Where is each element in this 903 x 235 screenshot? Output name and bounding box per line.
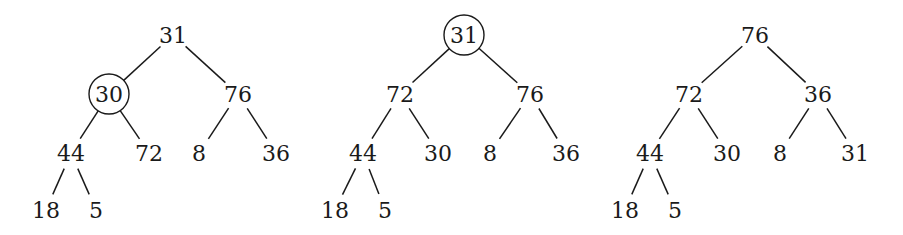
tree-node: 31 (841, 141, 869, 166)
node-label: 30 (95, 82, 123, 107)
tree-edge (702, 46, 743, 82)
node-label: 18 (611, 198, 639, 223)
tree-edge (53, 169, 64, 195)
tree-node: 36 (262, 141, 290, 166)
tree-3: 7672364430831185 (611, 23, 869, 223)
node-label: 76 (741, 23, 769, 48)
heap-diagram: 3130764472836185317276443083618576723644… (0, 0, 903, 235)
node-label: 18 (32, 198, 60, 223)
node-label: 44 (57, 141, 85, 166)
node-label: 30 (424, 141, 452, 166)
node-label: 72 (386, 82, 414, 107)
tree-node: 18 (321, 198, 349, 223)
tree-1: 3130764472836185 (32, 23, 290, 223)
node-label: 76 (516, 82, 544, 107)
tree-edge (343, 168, 356, 194)
tree-edge (369, 169, 379, 194)
tree-node: 36 (552, 141, 580, 166)
tree-edge (657, 169, 668, 195)
tree-edge (80, 111, 98, 139)
node-label: 36 (262, 141, 290, 166)
tree-node: 30 (424, 141, 452, 166)
tree-node: 5 (378, 198, 392, 223)
tree-node: 31 (159, 23, 187, 48)
tree-node: 36 (804, 82, 832, 107)
node-label: 8 (483, 141, 497, 166)
tree-node: 44 (57, 141, 85, 166)
tree-edge (632, 169, 643, 195)
tree-edge (120, 111, 139, 139)
tree-edge (372, 108, 391, 138)
tree-node: 8 (192, 141, 206, 166)
tree-node: 18 (611, 198, 639, 223)
tree-node: 30 (713, 141, 741, 166)
tree-node: 72 (675, 82, 703, 107)
tree-node: 30 (89, 74, 129, 114)
tree-node: 44 (349, 141, 377, 166)
node-label: 31 (450, 23, 478, 48)
tree-edge (827, 108, 846, 138)
tree-edge (698, 108, 718, 138)
node-label: 44 (636, 141, 664, 166)
tree-node: 72 (386, 82, 414, 107)
tree-edge (247, 108, 267, 138)
tree-node: 44 (636, 141, 664, 166)
tree-node: 76 (516, 82, 544, 107)
tree-edge (208, 108, 228, 139)
node-label: 8 (773, 141, 787, 166)
node-label: 8 (192, 141, 206, 166)
node-label: 72 (135, 141, 163, 166)
tree-edge (78, 169, 89, 195)
tree-edge (124, 47, 161, 81)
tree-edge (539, 109, 557, 139)
tree-edge (500, 108, 521, 139)
tree-2: 3172764430836185 (321, 15, 580, 223)
tree-node: 76 (224, 82, 252, 107)
node-label: 5 (668, 198, 682, 223)
node-label: 18 (321, 198, 349, 223)
node-label: 76 (224, 82, 252, 107)
node-label: 30 (713, 141, 741, 166)
tree-node: 72 (135, 141, 163, 166)
tree-edge (413, 49, 450, 83)
node-label: 5 (378, 198, 392, 223)
node-label: 36 (804, 82, 832, 107)
tree-node: 76 (741, 23, 769, 48)
tree-edge (409, 108, 429, 138)
node-label: 5 (89, 198, 103, 223)
node-label: 31 (841, 141, 869, 166)
tree-node: 8 (773, 141, 787, 166)
tree-edge (479, 48, 517, 82)
tree-node: 5 (668, 198, 682, 223)
tree-edge (767, 47, 805, 83)
tree-node: 5 (89, 198, 103, 223)
node-label: 36 (552, 141, 580, 166)
node-label: 72 (675, 82, 703, 107)
tree-edge (659, 108, 679, 139)
tree-node: 31 (444, 15, 484, 55)
tree-node: 8 (483, 141, 497, 166)
node-label: 31 (159, 23, 187, 48)
tree-edge (789, 108, 809, 138)
node-label: 44 (349, 141, 377, 166)
tree-edge (186, 46, 226, 82)
tree-node: 18 (32, 198, 60, 223)
